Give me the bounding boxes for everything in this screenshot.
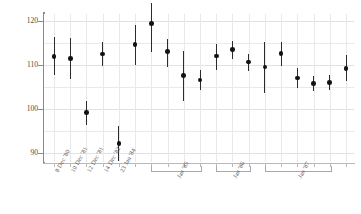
- data-point-marker: [181, 73, 186, 78]
- data-series: [44, 14, 354, 162]
- data-point-marker: [149, 21, 154, 26]
- y-axis-tick-label: 110: [0, 60, 38, 69]
- data-point-marker: [295, 76, 300, 81]
- data-point-marker: [198, 78, 203, 83]
- data-point-marker: [133, 42, 138, 47]
- data-point-marker: [84, 110, 89, 115]
- y-axis-tick-label: 90: [0, 148, 38, 157]
- y-axis-tick-label: 120: [0, 16, 38, 25]
- data-point-marker: [344, 66, 349, 71]
- data-point-marker: [100, 52, 105, 57]
- data-point-marker: [52, 54, 57, 59]
- plot-area: [44, 14, 354, 162]
- data-point-marker: [165, 49, 170, 54]
- x-axis-tick-mark: [346, 163, 347, 167]
- data-point-marker: [279, 51, 284, 56]
- data-point-marker: [214, 54, 219, 59]
- error-bar: [151, 3, 152, 52]
- data-point-marker: [246, 60, 251, 65]
- data-point-marker: [263, 65, 268, 70]
- data-point-marker: [117, 141, 122, 146]
- y-axis-tick-label: 100: [0, 104, 38, 113]
- data-point-marker: [311, 81, 316, 86]
- data-point-marker: [327, 80, 332, 85]
- data-point-marker: [68, 56, 73, 61]
- x-axis-tick-mark: [135, 163, 136, 167]
- error-bar-chart: MEAN WEIGHT (g) 90100110120 8 Dec '8010 …: [0, 0, 361, 214]
- data-point-marker: [230, 47, 235, 52]
